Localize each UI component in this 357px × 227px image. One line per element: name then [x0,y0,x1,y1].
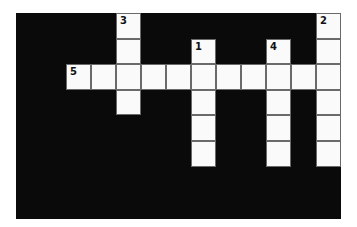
crossword-cell[interactable] [166,64,191,90]
crossword-cell[interactable] [316,90,341,116]
crossword-cell[interactable] [116,39,141,65]
crossword-cell[interactable]: 2 [316,13,341,39]
clue-number: 2 [320,15,327,26]
crossword-board: 32145 [16,13,341,219]
crossword-cell[interactable] [266,64,291,90]
crossword-cell[interactable] [316,141,341,167]
crossword-cell[interactable]: 5 [66,64,91,90]
crossword-cell[interactable] [91,64,116,90]
crossword-cell[interactable] [191,90,216,116]
crossword-cell[interactable]: 4 [266,39,291,65]
crossword-cell[interactable] [116,64,141,90]
crossword-cell[interactable] [141,64,166,90]
crossword-cell[interactable] [216,64,241,90]
crossword-cell[interactable] [116,90,141,116]
clue-number: 3 [120,15,127,26]
crossword-cell[interactable] [241,64,266,90]
crossword-cell[interactable] [191,64,216,90]
crossword-cell[interactable] [316,115,341,141]
clue-number: 4 [270,41,277,52]
clue-number: 1 [195,41,202,52]
crossword-cell[interactable] [191,115,216,141]
crossword-cell[interactable] [316,39,341,65]
crossword-cell[interactable] [266,141,291,167]
crossword-cell[interactable] [316,64,341,90]
crossword-cell[interactable]: 3 [116,13,141,39]
crossword-cell[interactable]: 1 [191,39,216,65]
crossword-cell[interactable] [266,115,291,141]
clue-number: 5 [70,66,77,77]
crossword-cell[interactable] [266,90,291,116]
crossword-cell[interactable] [191,141,216,167]
crossword-cell[interactable] [291,64,316,90]
